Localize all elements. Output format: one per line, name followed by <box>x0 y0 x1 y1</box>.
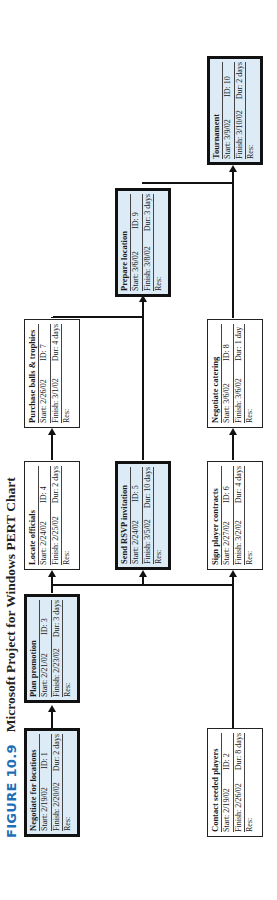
task-node-3[interactable]: Plan promotion Start: 2/21/02ID: 3 Finis… <box>24 594 80 703</box>
task-duration: Dur: 3 days <box>52 600 63 637</box>
task-duration: Dur: 2 days <box>235 62 246 99</box>
connector-9-10-v <box>142 182 234 184</box>
task-duration: Dur: 10 days <box>143 467 154 508</box>
task-finish: Finish: 3/6/02 <box>234 361 245 423</box>
task-name: Negotiate for locations <box>28 734 39 831</box>
task-finish: Finish: 3/5/02 <box>143 508 154 564</box>
task-id: ID: 3 <box>40 618 51 635</box>
task-finish: Finish: 2/23/02 <box>52 637 63 697</box>
task-id: ID: 8 <box>222 344 233 361</box>
connector-1-3 <box>51 712 53 728</box>
task-node-2[interactable]: Contact seeded players Start: 2/19/02ID:… <box>207 728 263 837</box>
task-duration: Dur: 2 days <box>51 466 62 503</box>
task-start: Start: 2/24/02 <box>39 503 50 565</box>
task-name: Plan promotion <box>28 600 39 697</box>
task-duration: Dur: 4 days <box>234 466 245 503</box>
figure-caption: FIGURE 10.9 Microsoft Project for Window… <box>3 477 19 838</box>
task-start: Start: 2/24/02 <box>131 502 142 564</box>
task-finish: Finish: 3/1/02 <box>51 361 62 423</box>
task-name: Purchase balls & trophies <box>27 324 38 423</box>
task-duration: Dur: 2 days <box>52 734 63 771</box>
task-node-9[interactable]: Prepare location Start: 3/6/02ID: 9 Fini… <box>115 188 171 297</box>
task-name: Negotiate catering <box>210 324 221 423</box>
task-name: Locate officials <box>27 466 38 565</box>
task-resources: Res: <box>244 466 256 565</box>
task-duration: Dur: 1 day <box>234 327 245 361</box>
task-name: Tournament <box>211 62 222 159</box>
connector-5-9 <box>142 302 144 460</box>
connector-8-10 <box>232 172 234 318</box>
task-name: Prepare location <box>119 194 130 291</box>
task-start: Start: 3/6/02 <box>222 361 233 423</box>
arrowhead-icon <box>229 570 237 577</box>
task-id: ID: 4 <box>39 486 50 503</box>
task-resources: Res: <box>61 324 73 423</box>
task-resources: Res: <box>62 600 74 697</box>
arrowhead-icon <box>48 428 56 435</box>
task-finish: Finish: 2/25/02 <box>51 503 62 565</box>
task-start: Start: 2/21/02 <box>40 635 51 697</box>
figure-number: FIGURE 10.9 <box>4 744 19 838</box>
task-start: Start: 2/26/02 <box>39 361 50 423</box>
task-node-10[interactable]: Tournament Start: 3/9/02ID: 10 Finish: 3… <box>207 56 263 165</box>
task-finish: Finish: 3/8/02 <box>143 231 154 291</box>
task-name: Sign player contracts <box>210 466 221 565</box>
connector-7-9-h <box>51 317 53 318</box>
task-id: ID: 9 <box>131 212 142 229</box>
figure-title: Microsoft Project for Windows PERT Chart <box>3 477 19 732</box>
task-finish: Finish: 3/2/02 <box>234 503 245 565</box>
arrowhead-icon <box>229 428 237 435</box>
task-resources: Res: <box>153 194 165 291</box>
task-resources: Res: <box>244 324 256 423</box>
pert-chart: FIGURE 10.9 Microsoft Project for Window… <box>0 0 277 900</box>
task-node-7[interactable]: Purchase balls & trophies Start: 2/26/02… <box>24 319 80 428</box>
arrowhead-icon <box>139 570 147 577</box>
connector-7-9 <box>53 316 143 318</box>
task-id: ID: 7 <box>39 344 50 361</box>
connector-3-5 <box>142 577 144 586</box>
task-id: ID: 1 <box>40 752 51 769</box>
task-resources: Res: <box>244 733 256 832</box>
connector-6-8 <box>232 435 234 460</box>
task-resources: Res: <box>153 467 165 564</box>
task-id: ID: 6 <box>222 486 233 503</box>
connector-4-7 <box>51 435 53 460</box>
task-finish: Finish: 2/20/02 <box>52 771 63 831</box>
task-start: Start: 3/6/02 <box>131 229 142 291</box>
task-node-1[interactable]: Negotiate for locations Start: 2/19/02ID… <box>24 728 80 837</box>
task-start: Start: 2/19/02 <box>40 769 51 831</box>
arrowhead-icon <box>229 165 237 172</box>
task-start: Start: 2/27/02 <box>222 503 233 565</box>
arrowhead-icon <box>48 570 56 577</box>
task-resources: Res: <box>61 466 73 565</box>
task-finish: Finish: 2/26/02 <box>234 770 245 832</box>
task-name: Contact seeded players <box>210 733 221 832</box>
task-node-5[interactable]: Send RSVP invitation Start: 2/24/02ID: 5… <box>115 461 171 570</box>
arrowhead-icon <box>48 705 56 712</box>
task-node-6[interactable]: Sign player contracts Start: 2/27/02ID: … <box>207 461 263 570</box>
task-duration: Dur: 3 days <box>143 194 154 231</box>
task-start: Start: 2/19/02 <box>222 770 233 832</box>
task-finish: Finish: 3/10/02 <box>235 99 246 159</box>
task-node-8[interactable]: Negotiate catering Start: 3/6/02ID: 8 Fi… <box>207 319 263 428</box>
task-duration: Dur: 4 days <box>51 324 62 361</box>
task-start: Start: 3/9/02 <box>223 97 234 159</box>
task-resources: Res: <box>245 62 257 159</box>
task-id: ID: 10 <box>223 76 234 97</box>
task-duration: Dur: 8 days <box>234 733 245 770</box>
task-id: ID: 5 <box>131 485 142 502</box>
task-node-4[interactable]: Locate officials Start: 2/24/02ID: 4 Fin… <box>24 461 80 570</box>
task-id: ID: 2 <box>222 753 233 770</box>
task-resources: Res: <box>62 734 74 831</box>
task-name: Send RSVP invitation <box>119 467 130 564</box>
connector-2-6 <box>232 577 234 728</box>
